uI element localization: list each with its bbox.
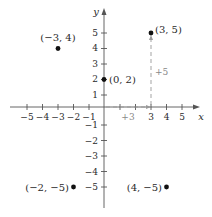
y-axis-arrow-icon <box>102 8 107 15</box>
x-tick-label: −3 <box>51 112 65 122</box>
y-tick-label: −2 <box>85 136 98 146</box>
x-tick-label: 5 <box>179 112 185 122</box>
point-label: (0, 2) <box>109 74 136 85</box>
y-tick-label: 2 <box>92 74 98 84</box>
x-tick-label: −5 <box>20 112 34 122</box>
x-axis-arrow-icon <box>193 105 200 110</box>
point-label: (−3, 4) <box>40 32 75 43</box>
y-tick-label: −4 <box>85 167 99 177</box>
right-arrow-icon <box>146 105 151 109</box>
y-tick-label: 5 <box>92 28 98 38</box>
x-tick-label: −4 <box>36 112 50 122</box>
up-arrow-icon <box>149 35 153 40</box>
coordinate-plane: −5 −4 −3 −2 −1 3 4 5 x <box>0 0 212 217</box>
point-label: (3, 5) <box>155 24 182 35</box>
horizontal-move-label: +3 <box>121 112 135 122</box>
point-label: (−2, −5) <box>25 182 69 193</box>
y-tick-label: −1 <box>85 120 98 130</box>
y-tick-label: −5 <box>85 182 99 192</box>
point-marker <box>71 185 76 190</box>
point-marker <box>164 185 169 190</box>
x-tick-label: −2 <box>67 112 80 122</box>
point-label: (4, −5) <box>127 182 162 193</box>
point-marker <box>149 31 154 36</box>
y-tick-label: −3 <box>85 151 99 161</box>
y-tick-label: 4 <box>92 43 98 53</box>
point-marker <box>56 46 61 51</box>
vertical-move-label: +5 <box>155 67 169 77</box>
y-tick-label: 1 <box>92 90 98 100</box>
y-axis-label: y <box>92 6 99 17</box>
point-marker <box>102 77 107 82</box>
y-tick-label: 3 <box>92 59 98 69</box>
x-tick-label: 3 <box>148 112 154 122</box>
x-axis-label: x <box>198 111 204 122</box>
x-tick-label: 4 <box>164 112 170 122</box>
